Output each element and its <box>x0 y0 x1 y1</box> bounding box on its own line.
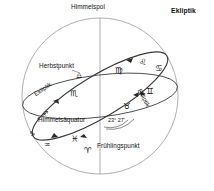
himmelspol-label: Himmelspol <box>71 4 105 10</box>
zodiac-symbol-libra: ♎ <box>76 73 82 80</box>
herbstpunkt-label: Herbstpunkt <box>39 63 74 69</box>
zodiac-symbol-sagittarius: ♐ <box>42 111 48 118</box>
zodiac-symbol-capricorn: ♑ <box>29 131 35 138</box>
zodiac-symbol-taurus: ♉ <box>123 102 131 111</box>
zodiac-symbol-pisces: ♓ <box>71 135 79 144</box>
sphere-drawing <box>0 0 214 191</box>
fruehlingspunkt-label: Frühlingspunkt <box>97 143 140 149</box>
zodiac-symbol-leo: ♌ <box>139 58 147 67</box>
zodiac-symbol-cancer: ♋ <box>155 64 163 73</box>
ekliptik-corner-label: Ekliptik <box>171 8 196 15</box>
zodiac-symbol-gemini: ♊ <box>146 87 154 96</box>
obliquity-angle-label: 23° 27' <box>108 118 125 123</box>
zodiac-symbol-aries: ♈ <box>84 146 92 155</box>
zodiac-symbol-virgo: ♍ <box>115 66 123 75</box>
zodiac-symbol-scorpio: ♏ <box>70 89 78 98</box>
celestial-sphere-figure: Himmelspol Ekliptik Herbstpunkt Frühling… <box>0 0 214 191</box>
zodiac-symbol-aquarius: ♒ <box>44 142 50 149</box>
